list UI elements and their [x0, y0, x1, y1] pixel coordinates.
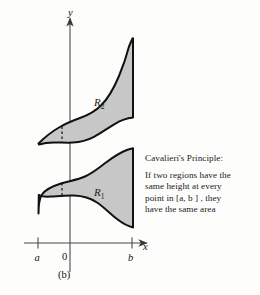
cavalieri-figure: y x a b 0 R2 R1 Cavalieri's Principle: I… — [0, 0, 260, 295]
caption-line-4: have the same area — [145, 204, 257, 216]
caption-title: Cavalieri's Principle: — [145, 153, 257, 165]
caption-block: Cavalieri's Principle: If two regions ha… — [145, 153, 257, 216]
x-axis-label: x — [143, 241, 148, 252]
y-axis-label: y — [68, 7, 73, 18]
region-label-r1: R1 — [94, 186, 104, 201]
region-label-r1-sub: 1 — [101, 192, 105, 201]
region-label-r2: R2 — [94, 96, 104, 111]
caption-line-2: same height at every — [145, 181, 257, 193]
region-r1 — [39, 148, 134, 227]
x-tick-label-b: b — [128, 252, 133, 263]
origin-label: 0 — [62, 251, 67, 262]
region-r1-shape — [39, 148, 134, 227]
region-r2-shape — [39, 38, 134, 144]
region-label-r1-base: R — [94, 186, 101, 198]
caption-line-1: If two regions have the — [145, 170, 257, 182]
x-tick-label-a: a — [35, 252, 40, 263]
region-label-r2-sub: 2 — [101, 102, 105, 111]
region-r2 — [39, 38, 134, 144]
region-label-r2-base: R — [94, 96, 101, 108]
caption-line-3: point in [a, b ] , they — [145, 193, 257, 205]
panel-label: (b) — [58, 269, 70, 280]
figure-canvas — [0, 0, 260, 295]
